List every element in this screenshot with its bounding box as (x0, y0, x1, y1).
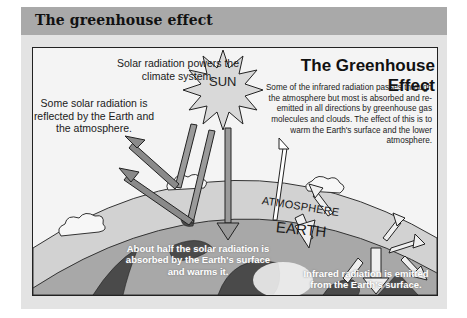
sun-label: SUN (209, 74, 236, 89)
figure-panel: The greenhouse effect (21, 7, 447, 309)
panel-title: The greenhouse effect (35, 12, 213, 28)
panel-header: The greenhouse effect (21, 7, 447, 35)
caption-emitted: Infrared radiation is emitted from the E… (303, 268, 429, 291)
greenhouse-diagram: Solar radiation powers the climate syste… (32, 47, 438, 296)
caption-infrared-description: Some of the infrared radiation passes th… (259, 83, 432, 147)
caption-absorbed: About half the solar radiation is absorb… (123, 243, 273, 277)
caption-reflected: Some solar radiation is reflected by the… (33, 97, 155, 135)
